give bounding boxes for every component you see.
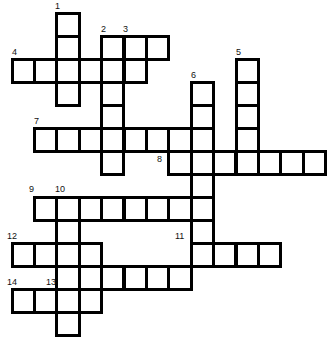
clue-number: 1	[55, 2, 60, 11]
clue-number: 14	[7, 278, 17, 287]
crossword-cell[interactable]	[167, 265, 192, 291]
clue-number: 11	[175, 232, 184, 241]
clue-number: 3	[123, 25, 128, 34]
crossword-cell[interactable]	[302, 150, 327, 176]
crossword-cell[interactable]	[78, 127, 103, 153]
clue-number: 8	[157, 155, 162, 164]
crossword-cell[interactable]	[78, 58, 103, 84]
clue-number: 6	[191, 71, 196, 80]
clue-number: 9	[29, 185, 34, 194]
crossword-cell[interactable]	[123, 58, 148, 84]
clue-number: 12	[7, 232, 17, 241]
crossword-cell[interactable]	[100, 150, 125, 176]
crossword-cell[interactable]	[212, 150, 237, 176]
crossword-cell[interactable]	[167, 150, 192, 176]
clue-number: 4	[12, 48, 17, 57]
clue-number: 7	[34, 117, 39, 126]
clue-number: 5	[236, 48, 241, 57]
crossword-cell[interactable]	[55, 81, 80, 107]
crossword-cell[interactable]	[78, 288, 103, 314]
crossword-cell[interactable]	[33, 288, 58, 314]
clue-number: 2	[101, 25, 106, 34]
crossword-cell[interactable]	[167, 196, 192, 222]
crossword-cell[interactable]	[33, 242, 58, 268]
crossword-cell[interactable]	[55, 311, 80, 337]
crossword-cell[interactable]	[33, 58, 58, 84]
clue-number: 10	[55, 185, 65, 194]
clue-number: 13	[46, 278, 56, 287]
crossword-cell[interactable]	[257, 242, 282, 268]
crossword-cell[interactable]	[145, 35, 170, 61]
